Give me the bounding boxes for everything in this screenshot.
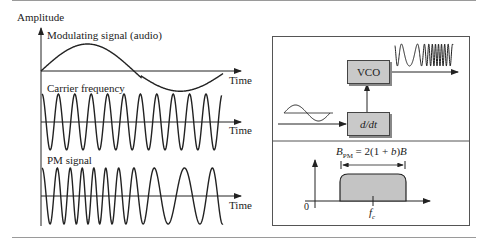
fc-subscript: c: [372, 213, 375, 221]
formula-bandwidth: B: [400, 145, 407, 157]
vco-block: VCO: [347, 60, 390, 84]
fc-label: fc: [369, 206, 375, 221]
spectrum-origin-label: 0: [304, 201, 309, 212]
derivative-block: d/dt: [347, 112, 390, 136]
modulating-waveform: [41, 44, 223, 91]
formula-subscript: PM: [343, 152, 353, 160]
formula-body: = 2(1 +: [353, 145, 391, 157]
bandwidth-formula: BPM = 2(1 + b)B: [336, 145, 407, 160]
formula-b-symbol: B: [336, 145, 343, 157]
